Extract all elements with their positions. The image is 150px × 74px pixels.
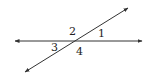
angle-label-1: 1 <box>98 27 105 40</box>
angle-label-4: 4 <box>76 45 83 58</box>
transversal-line <box>25 8 128 72</box>
angle-label-3: 3 <box>51 41 58 54</box>
angle-label-2: 2 <box>69 25 76 38</box>
intersecting-lines-diagram: 2 1 3 4 <box>0 0 150 74</box>
